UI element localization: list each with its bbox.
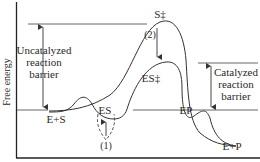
step-1-label: (1) xyxy=(100,140,112,152)
reactants-label: E+S xyxy=(46,113,65,125)
catalyzed-barrier-label-3: barrier xyxy=(221,90,251,102)
ep-label: EP xyxy=(180,104,193,116)
products-label: E+P xyxy=(222,140,241,152)
free-energy-diagram: Free energy S‡ ES‡ ES EP E+S E+P (1) (2)… xyxy=(0,0,260,162)
es-label: ES xyxy=(99,104,112,116)
uncatalyzed-barrier-label-1: Uncatalyzed xyxy=(17,44,72,56)
step-2-label: (2) xyxy=(144,29,156,41)
catalyzed-barrier-label-2: reaction xyxy=(218,78,254,90)
y-axis-label: Free energy xyxy=(1,58,12,105)
catalyzed-barrier-label-1: Catalyzed xyxy=(214,66,258,78)
uncatalyzed-barrier-label-2: reaction xyxy=(26,56,62,68)
s-dagger-label: S‡ xyxy=(154,8,166,20)
es-dagger-label: ES‡ xyxy=(142,72,161,84)
uncatalyzed-barrier-label-3: barrier xyxy=(29,68,59,80)
